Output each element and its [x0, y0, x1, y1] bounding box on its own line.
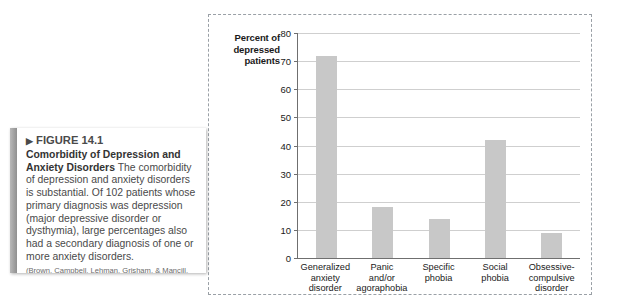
- caption-text: Comorbidity of Depression and Anxiety Di…: [26, 149, 200, 263]
- x-axis-label-line: anxiety: [298, 273, 353, 284]
- x-axis-label-line: phobia: [468, 273, 523, 284]
- bar-5: [541, 233, 562, 258]
- bar-1: [316, 56, 337, 259]
- x-axis-label-line: Social: [468, 262, 523, 273]
- bar-3: [429, 219, 450, 258]
- x-axis-label-5: Obsessive-compulsivedisorder: [523, 262, 580, 294]
- x-axis-label-line: Specific: [411, 262, 466, 273]
- bars-group: [298, 33, 580, 258]
- x-axis-label-line: Panic: [355, 262, 410, 273]
- bar-slot: [411, 33, 467, 258]
- bar-slot: [524, 33, 580, 258]
- triangle-right-icon: ▶: [26, 136, 33, 146]
- bar-chart: Percent of depressed patients 0102030405…: [208, 14, 592, 295]
- plot-area: 01020304050607080: [297, 33, 580, 259]
- x-axis-label-1: Generalizedanxietydisorder: [297, 262, 354, 294]
- x-axis-label-line: agoraphobia: [355, 283, 410, 294]
- y-axis-tick-label: 80: [280, 28, 291, 39]
- x-axis-label-line: phobia: [411, 273, 466, 284]
- caption-description: The comorbidity of depression and anxiet…: [26, 162, 195, 262]
- y-axis-tick-label: 20: [280, 196, 291, 207]
- y-axis-tick-label: 70: [280, 56, 291, 67]
- x-axis-label-3: Specificphobia: [410, 262, 467, 294]
- x-axis-label-line: Obsessive-: [524, 262, 579, 273]
- y-axis-tick-label: 50: [280, 112, 291, 123]
- bar-slot: [467, 33, 523, 258]
- x-axis-label-line: disorder: [298, 283, 353, 294]
- figure-caption-card: ▶ FIGURE 14.1 Comorbidity of Depression …: [10, 128, 206, 273]
- bar-2: [372, 207, 393, 258]
- bar-4: [485, 140, 506, 258]
- x-axis-label-line: compulsive: [524, 273, 579, 284]
- y-axis-tick-label: 0: [286, 253, 291, 264]
- y-axis-tick-label: 40: [280, 140, 291, 151]
- x-axis-label-4: Socialphobia: [467, 262, 524, 294]
- y-axis-tick-label: 10: [280, 224, 291, 235]
- bar-slot: [354, 33, 410, 258]
- caption-accent-bar: [10, 128, 17, 273]
- y-axis-title: Percent of depressed patients: [214, 32, 280, 67]
- caption-citation: (Brown, Campbell, Lehman, Grisham, & Man…: [26, 266, 200, 273]
- x-axis-label-line: Generalized: [298, 262, 353, 273]
- figure-number-label: FIGURE 14.1: [36, 134, 103, 146]
- figure-number: ▶ FIGURE 14.1: [26, 133, 200, 148]
- y-axis-tick-mark: [294, 258, 298, 259]
- x-axis-label-line: and/or: [355, 273, 410, 284]
- bar-slot: [298, 33, 354, 258]
- x-axis-label-2: Panicand/oragoraphobia: [354, 262, 411, 294]
- y-axis-tick-label: 60: [280, 84, 291, 95]
- x-axis-label-line: disorder: [524, 283, 579, 294]
- y-axis-tick-label: 30: [280, 168, 291, 179]
- x-axis-category-labels: GeneralizedanxietydisorderPanicand/orago…: [297, 262, 580, 294]
- caption-body: ▶ FIGURE 14.1 Comorbidity of Depression …: [26, 133, 200, 273]
